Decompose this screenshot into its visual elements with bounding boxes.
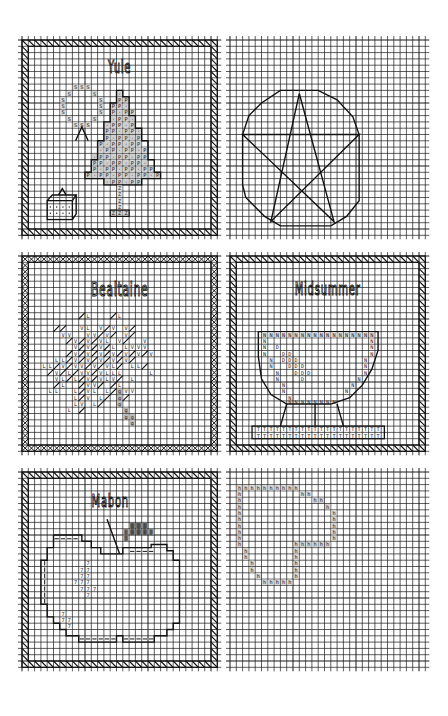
svg-text:T: T [301,433,304,439]
svg-text:h: h [295,554,298,560]
svg-text:L: L [61,357,64,363]
svg-text:T: T [276,433,279,439]
svg-text:V: V [99,351,102,357]
svg-text:L: L [93,401,96,407]
svg-text:h: h [257,485,260,491]
svg-text:Z: Z [124,210,127,216]
svg-text:h: h [263,485,266,491]
svg-text:h: h [332,523,335,529]
svg-text:h: h [301,491,304,497]
svg-text:V: V [74,351,77,357]
svg-text:N: N [269,332,272,338]
svg-text:V: V [87,376,90,382]
svg-text:N: N [301,332,304,338]
svg-text:·: · [143,160,146,166]
svg-text:V: V [124,357,127,363]
svg-text:N: N [263,338,266,344]
svg-text:V: V [80,325,83,331]
svg-text:P: P [137,141,140,147]
svg-text:T: T [295,433,298,439]
svg-text:T: T [295,426,298,432]
svg-text:N: N [313,399,316,405]
svg-text:D: D [295,370,298,376]
svg-text:T: T [288,426,291,432]
svg-text:P: P [137,160,140,166]
svg-text:N: N [263,344,266,350]
svg-text:N: N [269,363,272,369]
svg-text:·: · [150,172,153,178]
svg-text:h: h [238,529,241,535]
svg-text:N: N [276,332,279,338]
svg-text:N: N [326,399,329,405]
svg-text:N: N [282,388,285,394]
svg-text:h: h [307,491,310,497]
svg-text:N: N [339,332,342,338]
svg-text:·: · [93,172,96,178]
svg-text:·: · [118,91,121,97]
svg-text:S: S [87,122,90,128]
panel-midsummer: MidsummerNNNNNNNNNNNNNNNNNNNNNNNNNNNNNNN… [226,252,432,464]
svg-text:V: V [112,357,115,363]
svg-text:P: P [118,154,121,160]
svg-text:T: T [370,433,373,439]
svg-text:V: V [80,401,83,407]
svg-text:P: P [105,128,108,134]
svg-text:L: L [55,357,58,363]
svg-text:D: D [301,376,304,382]
svg-text:h: h [320,541,323,547]
svg-text:7: 7 [68,623,71,629]
svg-text:L: L [150,370,153,376]
svg-text:h: h [238,510,241,516]
svg-text:L: L [112,370,115,376]
svg-text:P: P [124,97,127,103]
svg-text:V: V [68,332,71,338]
svg-text:V: V [112,325,115,331]
svg-text:T: T [376,426,379,432]
svg-text:D: D [282,351,285,357]
svg-text:h: h [282,579,285,585]
svg-text:h: h [332,529,335,535]
svg-text:T: T [364,426,367,432]
svg-text:V: V [137,351,140,357]
svg-text:V: V [55,376,58,382]
svg-text:h: h [263,579,266,585]
svg-text:V: V [87,370,90,376]
svg-text:L: L [112,363,115,369]
svg-text:h: h [238,523,241,529]
yule-chart: YuleSSSSSSSSSSSSSSSS·PPPP·P·PP·PP··PP·PP… [18,36,224,244]
svg-text:T: T [257,433,260,439]
svg-text:V: V [93,332,96,338]
svg-text:h: h [332,516,335,522]
svg-text:P: P [124,109,127,115]
svg-text:h: h [244,548,247,554]
svg-text:L: L [118,313,121,319]
svg-text:N: N [313,332,316,338]
svg-text:P: P [112,103,115,109]
svg-text:7: 7 [68,617,71,623]
svg-text:V: V [74,363,77,369]
svg-text:S: S [99,103,102,109]
svg-text:P: P [112,160,115,166]
svg-text:S: S [61,109,64,115]
grid-lines [226,468,429,671]
svg-text:7: 7 [80,579,83,585]
svg-text:·: · [124,103,127,109]
svg-text:N: N [345,388,348,394]
svg-text:T: T [345,426,348,432]
svg-text:S: S [93,91,96,97]
svg-text:L: L [99,395,102,401]
svg-text:P: P [131,160,134,166]
svg-text:N: N [351,332,354,338]
svg-text:·: · [131,135,134,141]
svg-text:·: · [105,122,108,128]
svg-text:V: V [99,357,102,363]
svg-text:7: 7 [87,560,90,566]
svg-text:T: T [282,426,285,432]
svg-text:P: P [131,141,134,147]
svg-text:Z: Z [118,198,121,204]
svg-text:V: V [87,357,90,363]
svg-text:T: T [313,426,316,432]
svg-text:S: S [93,116,96,122]
svg-text:N: N [370,332,373,338]
svg-text:·: · [105,141,108,147]
